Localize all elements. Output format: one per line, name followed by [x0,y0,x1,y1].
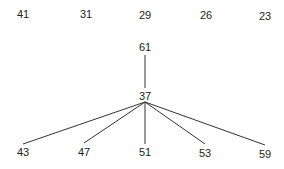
child-node: 59 [259,148,271,160]
top-node-29: 29 [139,9,151,21]
child-node: 51 [139,146,151,158]
child-node: 53 [199,147,211,159]
tree-edges [0,0,284,169]
child-node: 43 [17,146,29,158]
edge-37-43 [23,102,145,144]
top-node-26: 26 [200,9,212,21]
root-node: 61 [139,41,151,53]
child-node: 47 [78,146,90,158]
top-node-41: 41 [17,8,29,20]
top-node-31: 31 [80,8,92,20]
middle-node: 37 [139,90,151,102]
edge-37-59 [145,102,265,145]
top-node-23: 23 [259,10,271,22]
edge-37-53 [145,102,205,144]
edge-37-47 [84,102,145,143]
